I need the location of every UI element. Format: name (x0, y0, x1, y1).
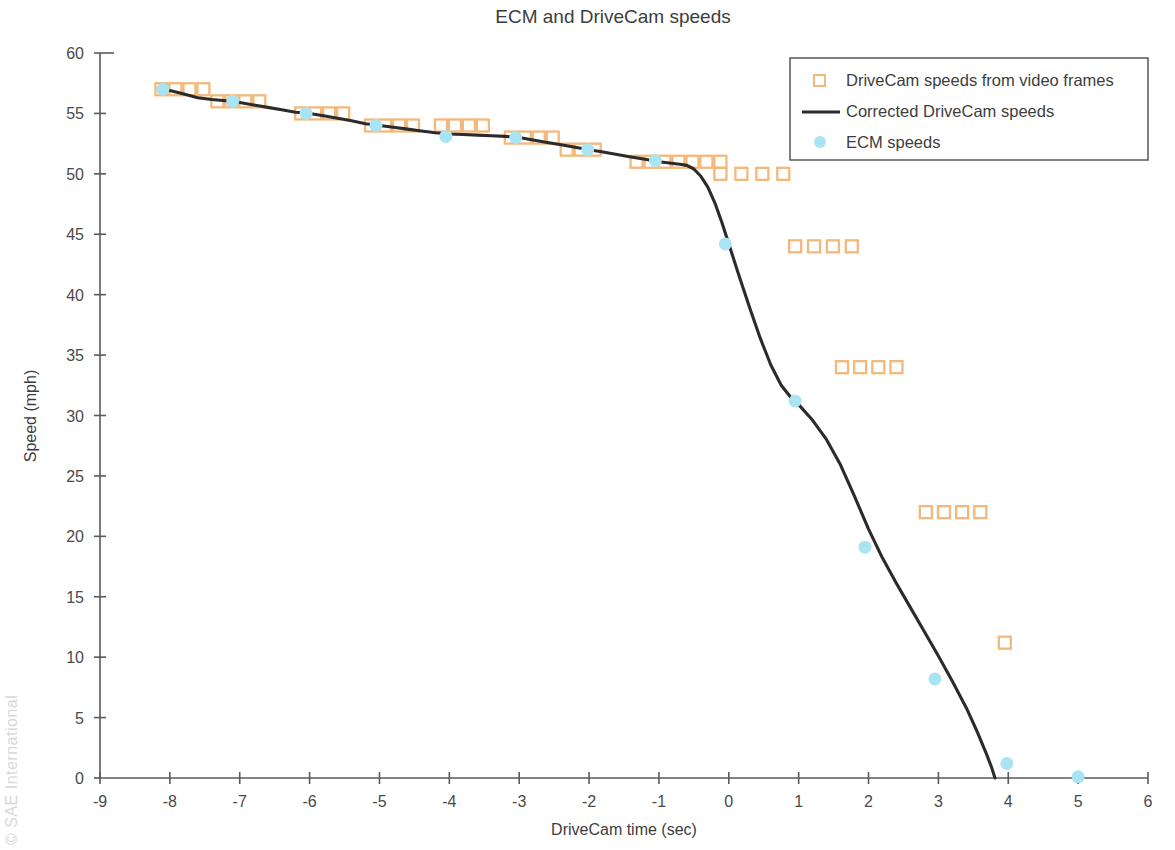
x-tick-label: 4 (1004, 793, 1013, 810)
chart-figure: ECM and DriveCam speeds Speed (mph) Driv… (0, 0, 1175, 850)
y-axis-label: Speed (mph) (22, 370, 39, 463)
x-tick-label: -5 (372, 793, 386, 810)
ecm-speed-dot (369, 119, 382, 132)
ecm-speed-dot (156, 83, 169, 96)
x-tick-label: 5 (1074, 793, 1083, 810)
ecm-speed-dot (439, 130, 452, 143)
y-tick-label: 25 (66, 468, 84, 485)
x-tick-label: 3 (934, 793, 943, 810)
y-tick-label: 55 (66, 105, 84, 122)
y-tick-label: 5 (75, 710, 84, 727)
ecm-speed-dot (859, 541, 872, 554)
x-tick-label: -1 (652, 793, 666, 810)
x-tick-label: -9 (93, 793, 107, 810)
legend-marker-dot (814, 136, 826, 148)
y-tick-label: 60 (66, 45, 84, 62)
ecm-speed-dot (1000, 757, 1013, 770)
copyright-watermark: © SAE International (3, 695, 20, 845)
x-tick-label: -4 (442, 793, 456, 810)
y-tick-label: 50 (66, 166, 84, 183)
x-tick-label: -3 (512, 793, 526, 810)
y-tick-label: 20 (66, 528, 84, 545)
y-tick-label: 35 (66, 347, 84, 364)
chart-title: ECM and DriveCam speeds (495, 6, 730, 27)
x-tick-label: 2 (864, 793, 873, 810)
y-tick-label: 45 (66, 226, 84, 243)
y-tick-label: 30 (66, 408, 84, 425)
x-tick-label: 1 (794, 793, 803, 810)
x-tick-label: 0 (724, 793, 733, 810)
ecm-speed-dot (1072, 770, 1085, 783)
legend-item-label: DriveCam speeds from video frames (846, 71, 1114, 89)
ecm-speed-dot (226, 95, 239, 108)
chart-svg: ECM and DriveCam speeds Speed (mph) Driv… (0, 0, 1175, 850)
ecm-speed-dot (928, 672, 941, 685)
ecm-speed-dot (509, 131, 522, 144)
legend-item-label: Corrected DriveCam speeds (846, 102, 1054, 120)
chart-legend: DriveCam speeds from video framesCorrect… (790, 58, 1148, 160)
y-tick-label: 40 (66, 287, 84, 304)
x-tick-label: 6 (1144, 793, 1153, 810)
x-tick-label: -2 (582, 793, 596, 810)
ecm-speed-dot (649, 154, 662, 167)
x-axis-label: DriveCam time (sec) (551, 821, 697, 838)
ecm-speed-dot (789, 395, 802, 408)
y-tick-label: 15 (66, 589, 84, 606)
ecm-speed-dot (300, 107, 313, 120)
legend-item-label: ECM speeds (846, 133, 940, 151)
x-tick-label: -8 (163, 793, 177, 810)
ecm-speed-dot (719, 237, 732, 250)
ecm-speed-dot (581, 143, 594, 156)
y-tick-label: 10 (66, 649, 84, 666)
x-tick-label: -6 (302, 793, 316, 810)
y-tick-label: 0 (75, 770, 84, 787)
x-tick-label: -7 (233, 793, 247, 810)
